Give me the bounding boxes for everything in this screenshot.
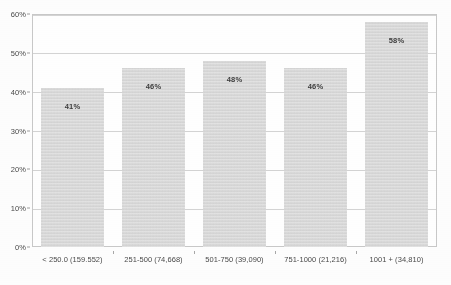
y-axis-tick-label: 50%: [11, 48, 26, 57]
x-axis-tick-label: 251-500 (74,668): [124, 255, 182, 264]
x-axis-tick-mark: [194, 251, 195, 254]
y-axis-tick-label: 20%: [11, 165, 26, 174]
bar[interactable]: 41%: [41, 88, 105, 247]
y-axis: 0%10%20%30%40%50%60%: [0, 14, 30, 247]
bar[interactable]: 46%: [122, 68, 186, 247]
y-axis-tick-mark: [27, 91, 30, 92]
x-axis-tick-mark: [275, 251, 276, 254]
x-axis-tick-label: 1001 + (34,810): [370, 255, 424, 264]
x-axis-tick-mark: [113, 251, 114, 254]
bar[interactable]: 48%: [203, 61, 267, 247]
bar[interactable]: 58%: [365, 22, 429, 247]
y-axis-tick-label: 40%: [11, 87, 26, 96]
y-axis-tick-mark: [27, 247, 30, 248]
x-axis-tick-mark: [356, 251, 357, 254]
y-axis-tick-label: 0%: [15, 243, 26, 252]
y-axis-tick-label: 30%: [11, 126, 26, 135]
y-axis-tick-mark: [27, 169, 30, 170]
bars-layer: 41%46%48%46%58%: [32, 14, 437, 247]
y-axis-tick-label: 60%: [11, 10, 26, 19]
x-axis-tick-label: 501-750 (39,090): [205, 255, 263, 264]
bar-value-label: 46%: [122, 82, 186, 91]
bar-value-label: 58%: [365, 36, 429, 45]
x-axis-tick-label: 751-1000 (21,216): [284, 255, 347, 264]
y-axis-tick-mark: [27, 14, 30, 15]
y-axis-tick-mark: [27, 130, 30, 131]
x-axis: < 250.0 (159.552)251-500 (74,668)501-750…: [32, 251, 437, 271]
bar[interactable]: 46%: [284, 68, 348, 247]
bar-chart: 0%10%20%30%40%50%60% 41%46%48%46%58% < 2…: [0, 0, 451, 285]
y-axis-tick-mark: [27, 208, 30, 209]
y-axis-tick-label: 10%: [11, 204, 26, 213]
bar-value-label: 41%: [41, 102, 105, 111]
bar-value-label: 46%: [284, 82, 348, 91]
x-axis-tick-label: < 250.0 (159.552): [42, 255, 102, 264]
bar-value-label: 48%: [203, 75, 267, 84]
y-axis-tick-mark: [27, 52, 30, 53]
